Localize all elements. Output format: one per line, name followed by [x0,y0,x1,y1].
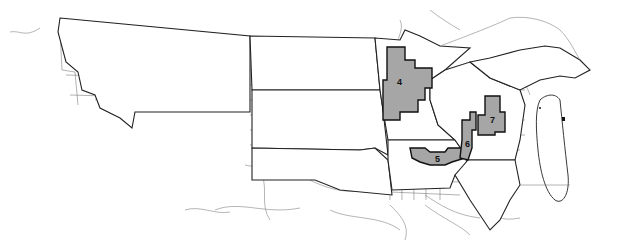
map-container: 4 5 6 7 [0,0,636,246]
state-nebraska [252,148,392,195]
state-south-dakota [252,90,388,155]
state-north-dakota [250,36,380,90]
map-canvas: 4 5 6 7 [0,0,636,246]
state-illinois [455,160,520,230]
region-label-6: 6 [465,139,470,149]
region-label-4: 4 [397,77,402,87]
region-label-5: 5 [435,154,440,164]
marker-dot [539,107,541,109]
lake-michigan [536,95,568,201]
state-boundaries-layer [58,17,590,230]
marker-dot [562,117,565,121]
state-montana [58,18,250,128]
region-label-7: 7 [490,115,495,125]
